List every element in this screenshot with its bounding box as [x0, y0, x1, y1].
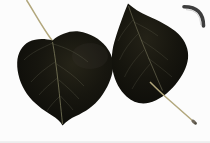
leaves-photo-canvas: [0, 0, 210, 143]
left-leaf-sheen: [72, 43, 108, 69]
bottom-edge-shadow: [0, 141, 210, 143]
photo-two-leaves: [0, 0, 210, 143]
right-leaf-petiole-tip: [194, 122, 196, 124]
